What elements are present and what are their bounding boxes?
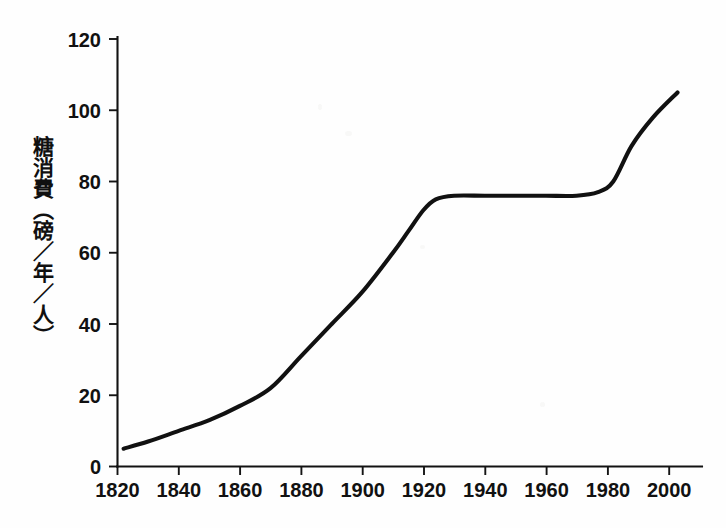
x-tick-label: 1900: [340, 479, 385, 501]
y-tick-label: 0: [90, 456, 101, 478]
x-tick-label: 1940: [463, 479, 508, 501]
x-tick-label: 1820: [95, 479, 140, 501]
y-axis-tick-labels: 0 20 40 60 80 100 120: [68, 29, 101, 479]
chart-plot-area: 0 20 40 60 80 100 120 1820 1840 1860 188…: [0, 0, 726, 528]
y-tick-label: 120: [68, 29, 101, 51]
x-tick-label: 1840: [157, 479, 202, 501]
y-tick-label: 40: [79, 314, 101, 336]
x-axis-tick-labels: 1820 1840 1860 1880 1900 1920 1940 1960 …: [95, 479, 691, 501]
y-axis-ticks: [109, 39, 118, 467]
y-tick-label: 80: [79, 171, 101, 193]
x-tick-label: 1960: [524, 479, 569, 501]
x-tick-label: 2000: [647, 479, 692, 501]
y-tick-label: 20: [79, 385, 101, 407]
sugar-consumption-curve: [124, 92, 678, 448]
chart-figure: 糖消費（磅／年／人）: [0, 0, 726, 528]
x-tick-label: 1980: [586, 479, 631, 501]
y-tick-label: 100: [68, 100, 101, 122]
y-tick-label: 60: [79, 242, 101, 264]
x-axis-ticks: [118, 467, 670, 476]
x-tick-label: 1920: [402, 479, 447, 501]
x-tick-label: 1880: [279, 479, 324, 501]
x-tick-label: 1860: [218, 479, 263, 501]
